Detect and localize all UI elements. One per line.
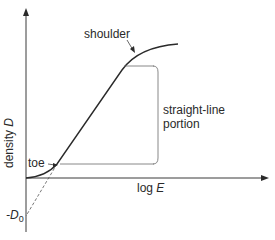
characteristic-curve bbox=[26, 44, 178, 178]
intercept-subscript: 0 bbox=[19, 214, 24, 224]
characteristic-curve-diagram bbox=[0, 0, 275, 240]
straight-line-label-line2: portion bbox=[163, 118, 200, 130]
x-axis-label-text: log bbox=[137, 181, 153, 195]
toe-label: toe bbox=[28, 157, 45, 169]
straight-line-label-line1: straight-line bbox=[163, 104, 225, 116]
y-axis-label: density D bbox=[3, 118, 15, 168]
y-axis-symbol: D bbox=[2, 118, 16, 127]
shoulder-arrow-icon bbox=[130, 46, 135, 53]
extrapolation-dashed-line bbox=[26, 164, 57, 216]
shoulder-label: shoulder bbox=[84, 28, 130, 40]
y-axis-label-text: density bbox=[2, 130, 16, 168]
intercept-label: -D0 bbox=[6, 209, 24, 224]
y-axis-arrow-icon bbox=[23, 8, 29, 16]
x-axis-label: log E bbox=[137, 182, 164, 194]
x-axis-arrow-icon bbox=[261, 175, 269, 181]
x-axis-symbol: E bbox=[156, 181, 164, 195]
straight-line-bracket bbox=[153, 66, 158, 164]
intercept-symbol: -D bbox=[6, 208, 19, 222]
